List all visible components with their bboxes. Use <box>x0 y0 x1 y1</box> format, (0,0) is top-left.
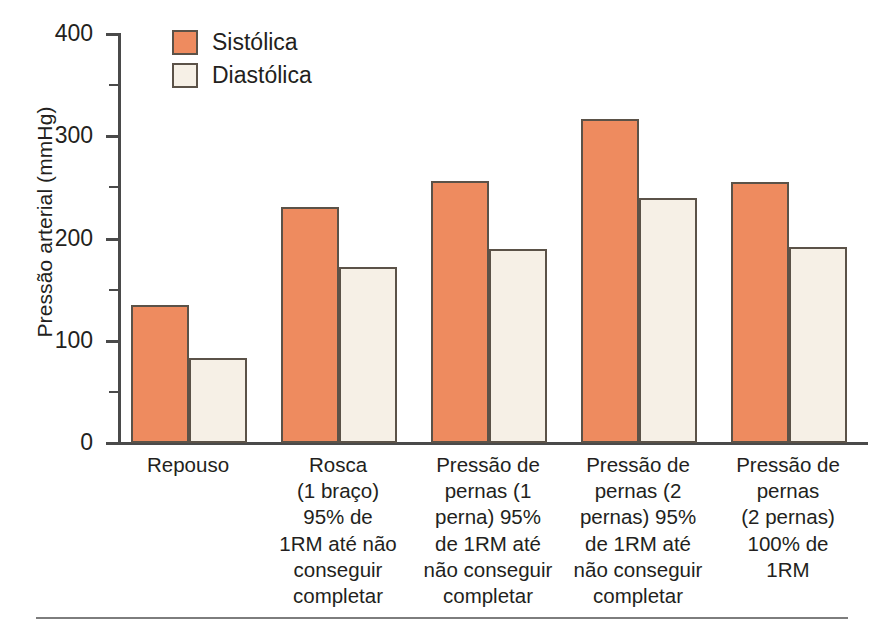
figure-bottom-rule <box>36 617 848 619</box>
x-category-label-line: Rosca <box>263 452 413 478</box>
x-category-label-line: Pressão de <box>563 452 713 478</box>
x-category-label-line: 1RM até não <box>263 531 413 557</box>
x-axis-category-labels: RepousoRosca(1 braço)95% de1RM até nãoco… <box>118 452 868 602</box>
x-category-label-line: pernas (1 <box>413 478 563 504</box>
x-category-label-line: Pressão de <box>413 452 563 478</box>
x-category-label-line: Repouso <box>113 452 263 478</box>
bar-diastólica-group-2 <box>339 267 397 443</box>
x-category-label-line: Pressão de <box>713 452 863 478</box>
legend-label-diastolic: Diastólica <box>212 64 312 87</box>
bar-diastólica-group-4 <box>639 198 697 443</box>
bar-sistólica-group-1 <box>131 305 189 443</box>
x-category-label-line: não conseguir <box>413 557 563 583</box>
x-category-label-line: 1RM <box>713 557 863 583</box>
x-category-label-line: 95% de <box>263 504 413 530</box>
legend-item-systolic: Sistólica <box>172 30 312 55</box>
x-category-label-line: completar <box>563 583 713 609</box>
chart-legend: Sistólica Diastólica <box>172 30 312 88</box>
x-category-label-line: de 1RM até <box>413 531 563 557</box>
bar-sistólica-group-2 <box>281 207 339 443</box>
bar-sistólica-group-4 <box>581 119 639 443</box>
x-category-label-line: completar <box>413 583 563 609</box>
bar-diastólica-group-3 <box>489 249 547 443</box>
x-category-label-line: (2 pernas) <box>713 504 863 530</box>
legend-swatch-systolic-icon <box>172 30 198 55</box>
x-category-label-line: (1 braço) <box>263 478 413 504</box>
x-category-label-1: Repouso <box>113 452 263 478</box>
bars-layer <box>0 0 888 443</box>
bar-diastólica-group-5 <box>789 247 847 443</box>
x-category-label-2: Rosca(1 braço)95% de1RM até nãoconseguir… <box>263 452 413 609</box>
x-category-label-4: Pressão depernas (2pernas) 95%de 1RM até… <box>563 452 713 609</box>
bar-chart-figure: Pressão arterial (mmHg) 0100200300400 Si… <box>0 0 888 633</box>
x-category-label-line: não conseguir <box>563 557 713 583</box>
x-category-label-line: conseguir <box>263 557 413 583</box>
x-category-label-3: Pressão depernas (1perna) 95%de 1RM atén… <box>413 452 563 609</box>
x-category-label-line: completar <box>263 583 413 609</box>
x-category-label-line: 100% de <box>713 531 863 557</box>
legend-item-diastolic: Diastólica <box>172 63 312 88</box>
bar-diastólica-group-1 <box>189 358 247 443</box>
x-category-label-line: pernas (2 <box>563 478 713 504</box>
legend-swatch-diastolic-icon <box>172 63 198 88</box>
x-category-label-line: pernas <box>713 478 863 504</box>
bar-sistólica-group-5 <box>731 182 789 443</box>
bar-sistólica-group-3 <box>431 181 489 443</box>
x-category-label-5: Pressão depernas(2 pernas)100% de1RM <box>713 452 863 583</box>
legend-label-systolic: Sistólica <box>212 31 298 54</box>
x-category-label-line: de 1RM até <box>563 531 713 557</box>
x-category-label-line: pernas) 95% <box>563 504 713 530</box>
x-category-label-line: perna) 95% <box>413 504 563 530</box>
